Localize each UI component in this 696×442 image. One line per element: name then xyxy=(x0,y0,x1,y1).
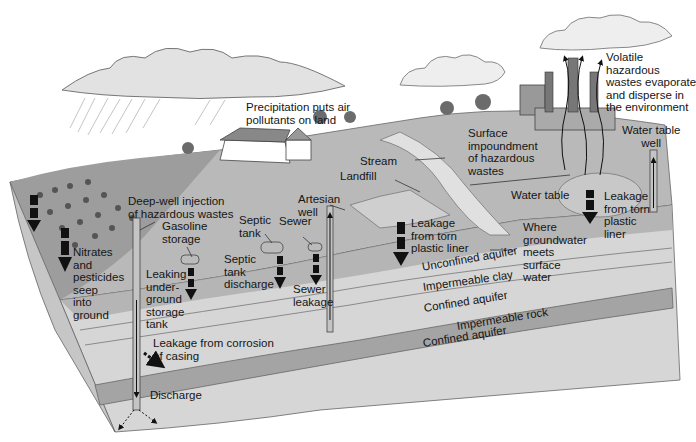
label-volatile-wastes: Volatile hazardous wastes evaporate and … xyxy=(606,51,696,114)
label-artesian-well: Artesian well xyxy=(298,193,340,218)
label-discharge: Discharge xyxy=(150,389,202,402)
label-septic-tank: Septic tank xyxy=(239,214,271,239)
label-where-groundwater: Where groundwater meets surface water xyxy=(523,221,587,284)
farmhouse xyxy=(220,128,311,163)
label-precipitation: Precipitation puts air pollutants on lan… xyxy=(246,101,350,126)
artesian-well xyxy=(327,206,333,332)
label-landfill: Landfill xyxy=(340,170,376,183)
label-water-table: Water table xyxy=(511,189,569,202)
label-gasoline-storage: Gasoline storage xyxy=(162,220,207,245)
label-leaking-tank: Leaking under- ground storage tank xyxy=(146,268,186,331)
label-sewer-leakage: Sewer leakage xyxy=(293,283,333,308)
label-landfill-leakage: Leakage from torn plastic liner xyxy=(411,217,469,255)
label-deep-well-injection: Deep-well injection of hazardous wastes xyxy=(128,195,233,220)
cloud-middle xyxy=(400,55,505,86)
water-table-well xyxy=(650,150,657,212)
cloud-right xyxy=(540,15,672,50)
label-septic-discharge: Septic tank discharge xyxy=(224,253,274,291)
label-surface-impoundment: Surface impoundment of hazardous wastes xyxy=(468,127,538,177)
label-water-table-well: Water table well xyxy=(622,124,680,149)
label-corrosion-leakage: Leakage from corrosion of casing xyxy=(153,337,274,362)
label-impoundment-leakage: Leakage from torn plastic liner xyxy=(604,190,650,240)
label-stream: Stream xyxy=(360,155,397,168)
label-nitrates-pesticides: Nitrates and pesticides seep into ground xyxy=(73,246,124,321)
